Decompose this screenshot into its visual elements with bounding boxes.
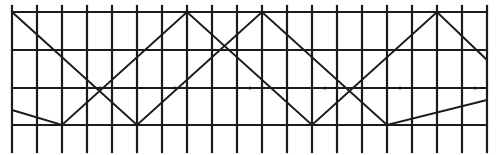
crossing-node-04 [323, 86, 326, 89]
crossing-node-06 [473, 86, 476, 89]
diagonal-zigzag-braces [12, 12, 487, 125]
crossing-node-03 [248, 86, 251, 89]
crossing-node-02 [173, 86, 176, 89]
grille-drawing-canvas [0, 0, 498, 155]
crossing-node-05 [398, 86, 401, 89]
crossing-node-01 [98, 86, 101, 89]
vertical-posts [12, 6, 487, 152]
zigzag-ascending-mirror [12, 12, 487, 125]
grille-figure [0, 0, 498, 155]
